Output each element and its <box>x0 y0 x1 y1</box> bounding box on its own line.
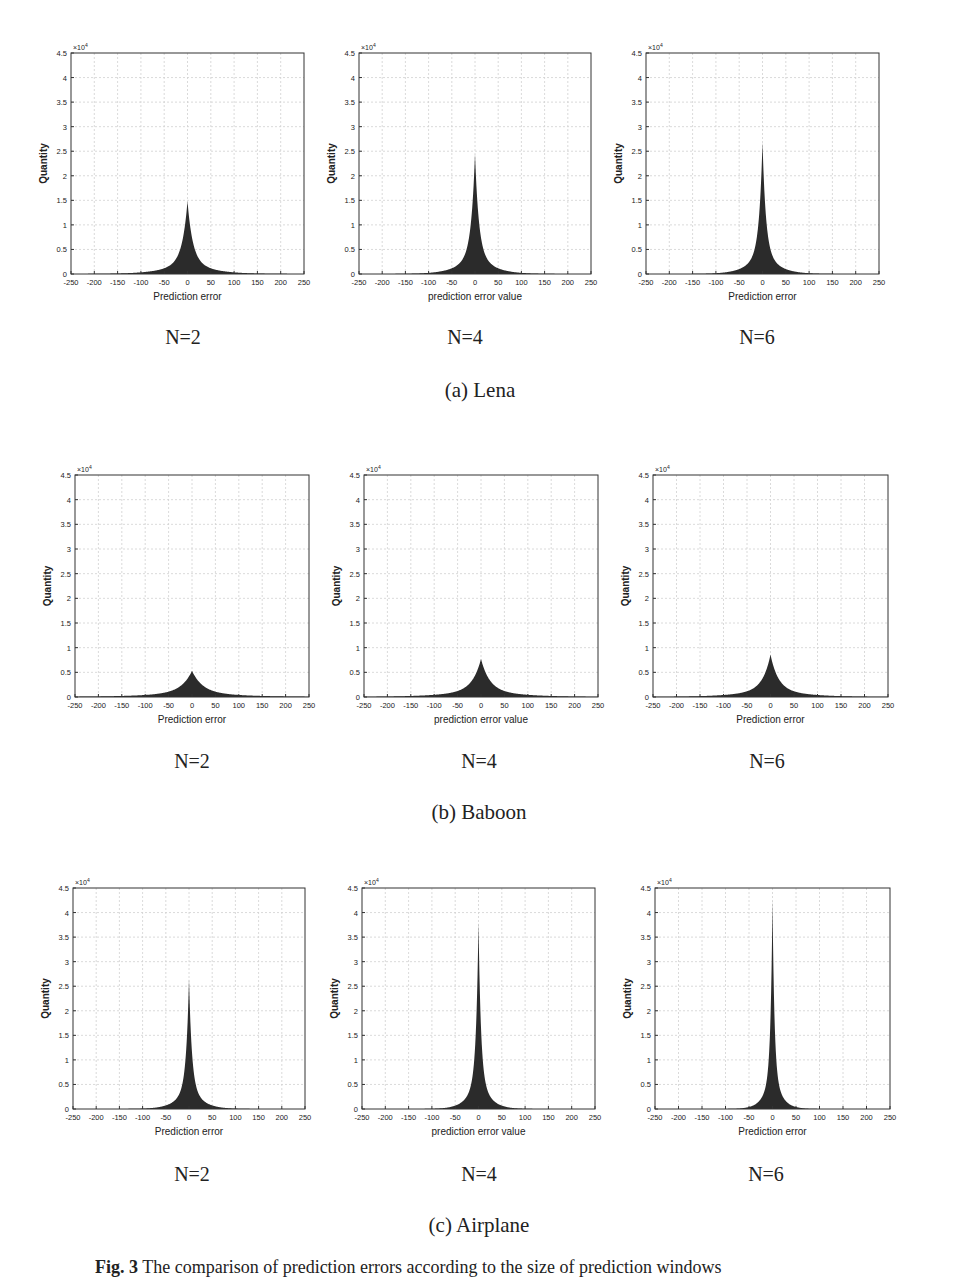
svg-text:3: 3 <box>63 123 67 132</box>
svg-text:200: 200 <box>565 1113 578 1122</box>
svg-text:50: 50 <box>792 1113 800 1122</box>
svg-text:-150: -150 <box>692 701 707 710</box>
svg-text:1: 1 <box>63 221 67 230</box>
histogram-plot-c-3: -250-200-150-100-5005010015020025000.511… <box>619 874 898 1149</box>
svg-text:2: 2 <box>351 172 355 181</box>
svg-text:3.5: 3.5 <box>345 98 355 107</box>
x-axis-label: prediction error value <box>428 291 522 302</box>
svg-text:150: 150 <box>251 278 264 287</box>
histogram-area <box>359 154 591 274</box>
svg-text:-200: -200 <box>91 701 106 710</box>
svg-text:2: 2 <box>638 172 642 181</box>
svg-text:4.5: 4.5 <box>57 49 67 58</box>
svg-text:-150: -150 <box>112 1113 127 1122</box>
svg-text:4.5: 4.5 <box>348 884 358 893</box>
svg-text:100: 100 <box>229 1113 242 1122</box>
histogram-plot-b-3: -250-200-150-100-5005010015020025000.511… <box>617 461 896 737</box>
x-axis-label: Prediction error <box>155 1126 224 1137</box>
svg-text:×104: ×104 <box>364 877 379 886</box>
svg-text:2.5: 2.5 <box>641 982 651 991</box>
svg-text:-250: -250 <box>67 701 82 710</box>
svg-text:3: 3 <box>647 958 651 967</box>
svg-text:4: 4 <box>638 74 642 83</box>
svg-text:-250: -250 <box>351 278 366 287</box>
svg-text:150: 150 <box>835 701 848 710</box>
svg-text:100: 100 <box>228 278 241 287</box>
svg-text:-200: -200 <box>378 1113 393 1122</box>
svg-text:×104: ×104 <box>77 464 92 473</box>
y-axis-label: Quantity <box>620 565 631 606</box>
svg-text:0: 0 <box>351 270 355 279</box>
svg-text:1: 1 <box>356 644 360 653</box>
svg-text:×104: ×104 <box>73 42 88 51</box>
svg-text:100: 100 <box>233 701 246 710</box>
svg-text:-50: -50 <box>446 278 457 287</box>
svg-text:-200: -200 <box>87 278 102 287</box>
svg-text:4.5: 4.5 <box>345 49 355 58</box>
svg-text:200: 200 <box>276 1113 289 1122</box>
n-label-a-3: N=6 <box>739 326 775 349</box>
svg-text:100: 100 <box>515 278 528 287</box>
histogram-area <box>75 671 309 697</box>
svg-text:4: 4 <box>63 74 67 83</box>
svg-text:-200: -200 <box>671 1113 686 1122</box>
svg-text:-50: -50 <box>160 1113 171 1122</box>
n-label-a-2: N=4 <box>447 326 483 349</box>
svg-text:2.5: 2.5 <box>57 147 67 156</box>
svg-text:250: 250 <box>299 1113 312 1122</box>
svg-text:1.5: 1.5 <box>345 196 355 205</box>
svg-text:1: 1 <box>351 221 355 230</box>
sub-caption-airplane: (c) Airplane <box>429 1213 530 1238</box>
y-axis-label: Quantity <box>622 978 633 1019</box>
n-label-c-2: N=4 <box>461 1163 497 1186</box>
svg-text:4: 4 <box>351 74 355 83</box>
n-label-b-3: N=6 <box>749 750 785 773</box>
svg-text:200: 200 <box>562 278 575 287</box>
svg-text:0.5: 0.5 <box>57 245 67 254</box>
svg-text:0.5: 0.5 <box>632 245 642 254</box>
figure-number: Fig. 3 <box>95 1257 138 1277</box>
svg-text:2.5: 2.5 <box>639 570 649 579</box>
svg-text:0: 0 <box>479 701 483 710</box>
svg-text:150: 150 <box>256 701 269 710</box>
figure-caption: Fig. 3 The comparison of prediction erro… <box>95 1257 722 1278</box>
svg-text:-150: -150 <box>694 1113 709 1122</box>
svg-text:250: 250 <box>303 701 316 710</box>
n-label-a-1: N=2 <box>165 326 201 349</box>
svg-text:2.5: 2.5 <box>345 147 355 156</box>
svg-text:250: 250 <box>592 701 605 710</box>
svg-text:50: 50 <box>782 278 790 287</box>
svg-text:-150: -150 <box>401 1113 416 1122</box>
sub-caption-lena: (a) Lena <box>445 378 516 403</box>
svg-text:250: 250 <box>589 1113 602 1122</box>
svg-text:3: 3 <box>65 958 69 967</box>
svg-text:0: 0 <box>65 1105 69 1114</box>
svg-text:-150: -150 <box>110 278 125 287</box>
svg-text:-50: -50 <box>450 1113 461 1122</box>
y-axis-label: Quantity <box>42 565 53 606</box>
svg-text:-100: -100 <box>427 701 442 710</box>
svg-text:0: 0 <box>67 693 71 702</box>
svg-text:150: 150 <box>538 278 551 287</box>
svg-text:1: 1 <box>354 1056 358 1065</box>
svg-text:0: 0 <box>354 1105 358 1114</box>
svg-text:-250: -250 <box>65 1113 80 1122</box>
svg-text:-250: -250 <box>356 701 371 710</box>
svg-text:2.5: 2.5 <box>61 570 71 579</box>
svg-text:-50: -50 <box>734 278 745 287</box>
svg-text:150: 150 <box>826 278 839 287</box>
svg-text:3.5: 3.5 <box>59 933 69 942</box>
histogram-plot-c-2: -250-200-150-100-5005010015020025000.511… <box>326 874 603 1149</box>
histogram-area <box>653 655 888 697</box>
svg-text:200: 200 <box>860 1113 873 1122</box>
svg-text:×104: ×104 <box>75 877 90 886</box>
svg-text:4.5: 4.5 <box>61 471 71 480</box>
svg-text:100: 100 <box>519 1113 532 1122</box>
svg-text:0.5: 0.5 <box>641 1080 651 1089</box>
svg-text:1.5: 1.5 <box>641 1031 651 1040</box>
svg-text:0.5: 0.5 <box>59 1080 69 1089</box>
svg-text:-200: -200 <box>375 278 390 287</box>
svg-text:-100: -100 <box>708 278 723 287</box>
n-label-b-2: N=4 <box>461 750 497 773</box>
svg-text:-200: -200 <box>662 278 677 287</box>
